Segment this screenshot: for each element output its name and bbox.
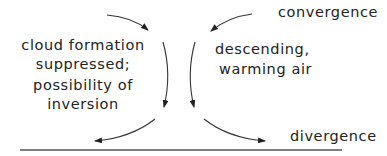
convergence-arrow-left bbox=[107, 15, 148, 30]
descending-label-line2: warming air bbox=[219, 60, 312, 79]
divergence-label: divergence bbox=[290, 127, 377, 146]
cloud-label-line4: inversion bbox=[8, 95, 158, 114]
cloud-label-line3: possibility of bbox=[8, 76, 158, 95]
convergence-arrow-right bbox=[211, 14, 252, 31]
cloud-label-line1: cloud formation bbox=[8, 36, 158, 55]
descending-label-line1: descending, bbox=[215, 40, 310, 59]
divergence-arrow-right bbox=[204, 119, 265, 141]
convergence-label: convergence bbox=[278, 3, 378, 22]
descending-curve-right bbox=[190, 42, 195, 107]
descending-curve-left bbox=[163, 42, 168, 107]
cloud-label-line2: suppressed; bbox=[8, 55, 158, 74]
divergence-arrow-left bbox=[95, 119, 155, 141]
